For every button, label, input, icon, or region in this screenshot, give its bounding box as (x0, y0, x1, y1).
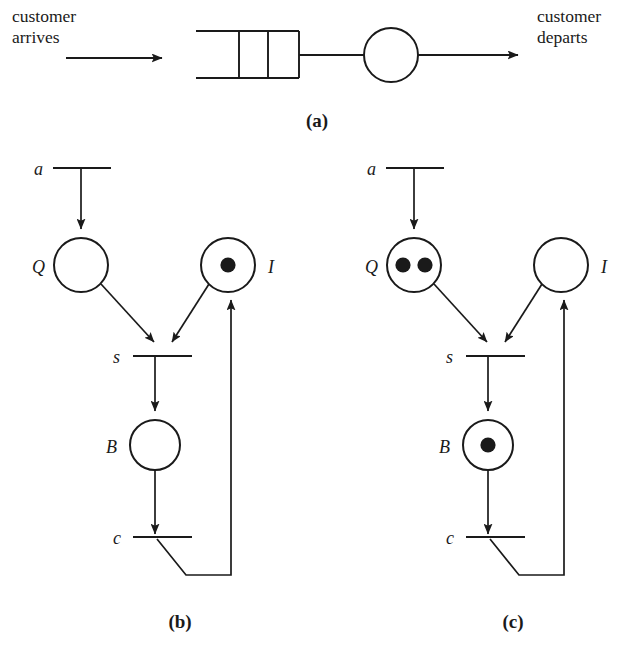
token-I-1 (220, 257, 235, 272)
customer-departs-label-line2: departs (537, 27, 588, 47)
place-I-label: I (267, 257, 275, 277)
transition-a-label: a (34, 159, 43, 179)
transition-s-label: s (113, 347, 120, 367)
token-Q-1 (395, 257, 410, 272)
transition-a-label-c: a (367, 159, 376, 179)
arc-Q-to-s (101, 284, 154, 342)
server-circle (364, 28, 418, 82)
transition-s-label-c: s (446, 347, 453, 367)
place-I-c (534, 238, 588, 292)
customer-arrives-label-line2: arrives (12, 27, 60, 47)
arc-Q-to-s-c (434, 284, 487, 342)
token-B-1 (480, 437, 495, 452)
place-B-label-c: B (439, 437, 450, 457)
caption-b: (b) (168, 611, 191, 633)
place-I-label-c: I (600, 257, 608, 277)
place-Q-label: Q (32, 257, 45, 277)
panel-c: a Q I s B c (c) (365, 159, 608, 633)
place-B (130, 420, 180, 470)
petri-net-figure: customer arrives customer departs (a) a … (0, 0, 635, 656)
queue-buffer (196, 31, 299, 78)
caption-c: (c) (502, 611, 523, 633)
arc-I-to-s (172, 284, 209, 342)
place-B-label: B (106, 437, 117, 457)
place-Q-c (387, 238, 441, 292)
transition-c-label: c (113, 528, 121, 548)
panel-b: a Q I s B c (b) (32, 159, 275, 633)
place-Q (54, 238, 108, 292)
transition-c-label-c: c (446, 528, 454, 548)
figure-container: customer arrives customer departs (a) a … (0, 0, 635, 656)
customer-departs-label-line1: customer (537, 6, 601, 26)
place-Q-label-c: Q (365, 257, 378, 277)
arc-I-to-s-c (505, 284, 542, 342)
customer-arrives-label-line1: customer (12, 6, 76, 26)
panel-a: customer arrives customer departs (a) (12, 6, 601, 132)
caption-a: (a) (306, 110, 328, 132)
token-Q-2 (417, 257, 432, 272)
